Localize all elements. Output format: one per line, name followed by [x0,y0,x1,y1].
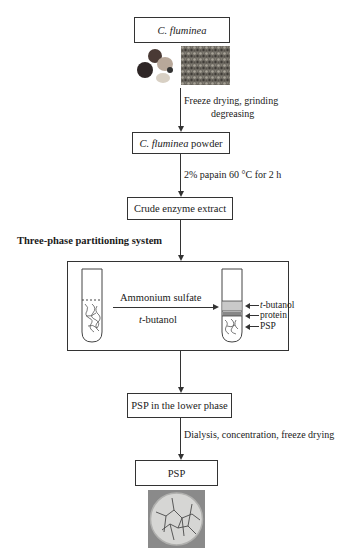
step-label-papain: 2% papain 60 °C for 2 h [184,168,281,181]
step-label-freeze-line2: degreasing [211,108,254,119]
node-crude-extract: Crude enzyme extract [127,197,233,220]
node-crude-extract-label: Crude enzyme extract [134,203,226,214]
node-psp-lower-phase: PSP in the lower phase [127,393,232,418]
arrow-line-3 [180,220,181,255]
tpp-arrow-top-label: Ammonium sulfate [120,291,201,304]
arrow-line-1 [180,88,181,126]
node-powder-italic: C. fluminea [139,138,188,149]
step-label-freeze-line1: Freeze drying, grinding [184,95,278,106]
layer-pointer-protein-head [245,313,250,319]
layer-pointer-tbutanol-head [245,303,250,309]
step-label-dialysis: Dialysis, concentration, freeze drying [184,428,334,441]
step-label-freeze-drying: Freeze drying, grinding [184,94,278,107]
layer-label-psp: PSP [260,320,276,333]
node-powder-rest: powder [188,138,222,149]
tpp-arrow-head [213,304,219,310]
node-c-fluminea: C. fluminea [134,17,230,43]
node-psp-lower-phase-label: PSP in the lower phase [131,400,227,411]
tpp-panel: Ammonium sulfate t-butanol t-butanol pro… [67,261,289,351]
psp-photo [148,490,205,548]
test-tube-before-icon [80,268,104,344]
powder-photo [181,46,230,85]
step-label-degreasing: degreasing [211,107,254,120]
layer-pointer-psp-head [245,324,250,330]
arrow-line-5 [180,418,181,454]
arrow-line-2 [180,154,181,191]
tpp-title: Three-phase partitioning system [17,234,162,247]
node-powder: C. fluminea powder [132,132,230,154]
node-c-fluminea-label: C. fluminea [158,25,207,36]
clam-photo [134,46,180,88]
test-tube-after-icon [220,268,244,344]
arrow-line-4 [180,351,181,387]
tpp-arrow-bottom-rest: -butanol [142,314,177,325]
tpp-arrow-line [113,307,213,308]
node-psp: PSP [135,460,218,486]
node-psp-label: PSP [168,468,186,479]
tpp-arrow-bottom-label: t-butanol [139,313,177,326]
